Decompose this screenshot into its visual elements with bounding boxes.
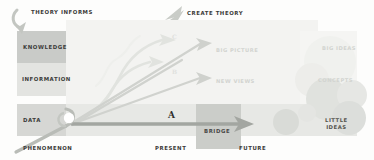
label-little-ideas-line1: LITTLE bbox=[325, 117, 348, 124]
label-theory-informs: THEORY INFORMS bbox=[31, 9, 93, 16]
marker-c: C bbox=[172, 33, 177, 40]
label-knowledge: KNOWLEDGE bbox=[23, 44, 67, 51]
create-theory-arrow-group bbox=[165, 6, 184, 20]
label-big-ideas: BIG IDEAS bbox=[322, 45, 356, 51]
marker-b: B bbox=[172, 68, 177, 75]
data-row-band bbox=[17, 104, 357, 136]
label-create-theory: CREATE THEORY bbox=[187, 10, 243, 17]
label-little-ideas-line2: IDEAS bbox=[325, 124, 348, 131]
label-information: INFORMATION bbox=[22, 76, 71, 83]
label-future: FUTURE bbox=[239, 145, 266, 152]
label-big-picture: BIG PICTURE bbox=[216, 47, 258, 53]
label-present: PRESENT bbox=[155, 145, 186, 152]
theory-informs-shaft bbox=[13, 10, 20, 28]
create-theory-wing-lower bbox=[170, 10, 184, 20]
band-bridge bbox=[196, 104, 241, 149]
label-new-views: NEW VIEWS bbox=[216, 78, 255, 84]
label-phenomenon: PHENOMENON bbox=[23, 145, 72, 152]
far-right-wash-region bbox=[300, 31, 357, 104]
label-little-ideas: LITTLE IDEAS bbox=[325, 117, 348, 131]
upper-wash-region bbox=[66, 20, 318, 104]
marker-a: A bbox=[168, 110, 175, 120]
create-theory-wing-upper bbox=[165, 6, 182, 20]
diagram-canvas: THEORY INFORMS CREATE THEORY KNOWLEDGE I… bbox=[0, 0, 374, 160]
label-data: DATA bbox=[23, 117, 41, 124]
label-concepts: CONCEPTS bbox=[318, 77, 353, 83]
label-bridge: BRIDGE bbox=[204, 128, 230, 135]
